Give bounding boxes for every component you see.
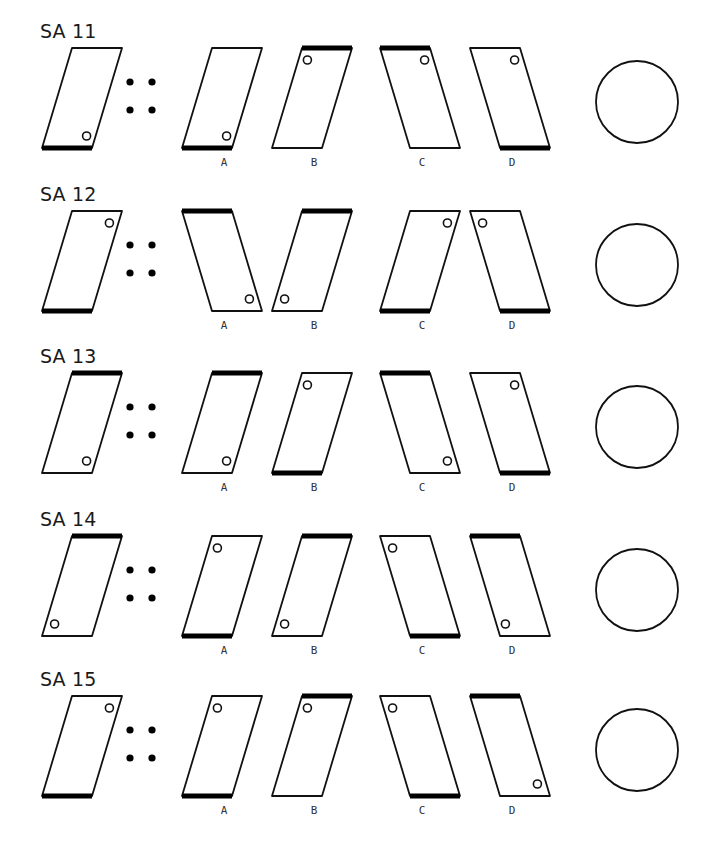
- option-label-a: A: [221, 156, 228, 169]
- option-shape-d: [470, 536, 550, 636]
- option-label-c: C: [419, 156, 426, 169]
- option-label-a: A: [221, 804, 228, 817]
- analogy-symbol-icon: [126, 241, 155, 276]
- question-row-sa-14: SA 14 ABCD: [0, 508, 717, 673]
- question-shape: [42, 211, 122, 311]
- dot-icon: [148, 726, 155, 733]
- parallelogram-outline: [272, 48, 352, 148]
- small-circle-marker-icon: [105, 219, 113, 227]
- option-shape-a: [182, 211, 262, 311]
- small-circle-marker-icon: [213, 544, 221, 552]
- parallelogram-outline: [182, 373, 262, 473]
- dot-icon: [126, 403, 133, 410]
- parallelogram-outline: [470, 48, 550, 148]
- option-label-d: D: [509, 804, 516, 817]
- option-shape-b: [272, 373, 352, 473]
- analogy-symbol-icon: [126, 403, 155, 438]
- analogy-symbol-icon: [126, 566, 155, 601]
- dot-icon: [148, 78, 155, 85]
- dot-icon: [126, 431, 133, 438]
- question-row-sa-11: SA 11 ABCD: [0, 20, 717, 185]
- parallelogram-outline: [42, 48, 122, 148]
- small-circle-marker-icon: [83, 457, 91, 465]
- small-circle-marker-icon: [303, 381, 311, 389]
- question-row-sa-15: SA 15 ABCD: [0, 668, 717, 833]
- small-circle-marker-icon: [223, 457, 231, 465]
- small-circle-marker-icon: [303, 704, 311, 712]
- question-row-sa-13: SA 13 ABCD: [0, 345, 717, 510]
- parallelogram-outline: [42, 373, 122, 473]
- option-shape-c: [380, 373, 460, 473]
- dot-icon: [126, 726, 133, 733]
- answer-circle: [596, 224, 678, 306]
- small-circle-marker-icon: [83, 132, 91, 140]
- option-shape-b: [272, 536, 352, 636]
- dot-icon: [148, 754, 155, 761]
- option-label-d: D: [509, 156, 516, 169]
- option-label-b: B: [311, 804, 318, 817]
- parallelogram-outline: [272, 696, 352, 796]
- option-label-b: B: [311, 644, 318, 657]
- option-label-c: C: [419, 481, 426, 494]
- dot-icon: [126, 566, 133, 573]
- dot-icon: [148, 106, 155, 113]
- dot-icon: [126, 241, 133, 248]
- parallelogram-outline: [182, 696, 262, 796]
- small-circle-marker-icon: [213, 704, 221, 712]
- parallelogram-outline: [182, 536, 262, 636]
- parallelogram-outline: [272, 373, 352, 473]
- option-shape-b: [272, 48, 352, 148]
- dot-icon: [126, 106, 133, 113]
- dot-icon: [126, 594, 133, 601]
- answer-circle: [596, 549, 678, 631]
- dot-icon: [148, 566, 155, 573]
- parallelogram-outline: [470, 536, 550, 636]
- question-shape: [42, 696, 122, 796]
- option-label-b: B: [311, 319, 318, 332]
- option-shape-d: [470, 373, 550, 473]
- option-label-b: B: [311, 481, 318, 494]
- option-label-a: A: [221, 319, 228, 332]
- dot-icon: [148, 431, 155, 438]
- option-label-d: D: [509, 319, 516, 332]
- option-shape-a: [182, 373, 262, 473]
- question-figure: [0, 345, 717, 510]
- answer-circle: [596, 709, 678, 791]
- option-shape-c: [380, 536, 460, 636]
- option-label-c: C: [419, 804, 426, 817]
- small-circle-marker-icon: [51, 620, 59, 628]
- parallelogram-outline: [470, 373, 550, 473]
- option-shape-b: [272, 211, 352, 311]
- question-figure: [0, 668, 717, 833]
- option-shape-a: [182, 696, 262, 796]
- dot-icon: [126, 78, 133, 85]
- small-circle-marker-icon: [281, 620, 289, 628]
- option-shape-c: [380, 211, 460, 311]
- small-circle-marker-icon: [245, 295, 253, 303]
- option-shape-a: [182, 48, 262, 148]
- small-circle-marker-icon: [533, 780, 541, 788]
- dot-icon: [148, 403, 155, 410]
- dot-icon: [148, 594, 155, 601]
- analogy-symbol-icon: [126, 726, 155, 761]
- parallelogram-outline: [182, 48, 262, 148]
- question-shape: [42, 48, 122, 148]
- question-row-sa-12: SA 12 ABCD: [0, 183, 717, 348]
- dot-icon: [148, 269, 155, 276]
- option-shape-d: [470, 48, 550, 148]
- dot-icon: [126, 269, 133, 276]
- small-circle-marker-icon: [511, 56, 519, 64]
- small-circle-marker-icon: [421, 56, 429, 64]
- option-label-a: A: [221, 481, 228, 494]
- analogy-symbol-icon: [126, 78, 155, 113]
- small-circle-marker-icon: [443, 457, 451, 465]
- small-circle-marker-icon: [389, 704, 397, 712]
- option-shape-c: [380, 696, 460, 796]
- option-shape-b: [272, 696, 352, 796]
- answer-circle: [596, 61, 678, 143]
- small-circle-marker-icon: [501, 620, 509, 628]
- small-circle-marker-icon: [303, 56, 311, 64]
- option-shape-c: [380, 48, 460, 148]
- small-circle-marker-icon: [105, 704, 113, 712]
- option-label-a: A: [221, 644, 228, 657]
